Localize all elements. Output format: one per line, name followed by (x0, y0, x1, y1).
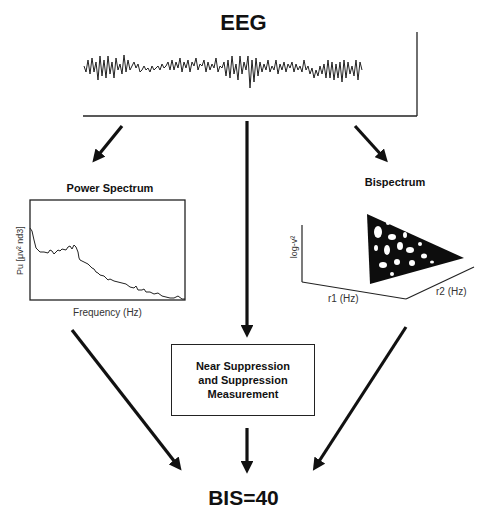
suppression-measurement-box: Near Suppression and Suppression Measure… (171, 344, 315, 416)
eeg-panel-frame (83, 32, 417, 116)
arrow-bispectrum-to-bis (316, 327, 406, 466)
bispectrum-r1-label: r1 (Hz) (328, 293, 359, 304)
eeg-title: EEG (0, 10, 487, 36)
suppression-line-1: Near Suppression (196, 359, 290, 373)
arrow-power-spectrum-to-bis (72, 330, 178, 466)
bispectrum-surface (367, 214, 464, 284)
power-spectrum-xlabel: Frequency (Hz) (30, 307, 185, 318)
suppression-line-2: and Suppression (196, 373, 290, 387)
bispectrum-r2-label: r2 (Hz) (436, 286, 467, 297)
suppression-line-3: Measurement (196, 387, 290, 401)
arrow-eeg-to-power-spectrum (96, 126, 122, 158)
bispectrum-zlabel: log-v² (289, 225, 299, 269)
arrow-eeg-to-bispectrum (355, 126, 384, 158)
power-spectrum-curve (30, 228, 185, 299)
power-spectrum-title: Power Spectrum (30, 182, 190, 194)
eeg-waveform (84, 55, 362, 88)
bispectrum-title: Bispectrum (340, 176, 450, 188)
power-spectrum-plot-frame (30, 200, 185, 300)
bis-result: BIS=40 (0, 486, 487, 510)
diagram-canvas (0, 0, 487, 516)
power-spectrum-ylabel: Pu [μv² nd3] (15, 235, 25, 275)
